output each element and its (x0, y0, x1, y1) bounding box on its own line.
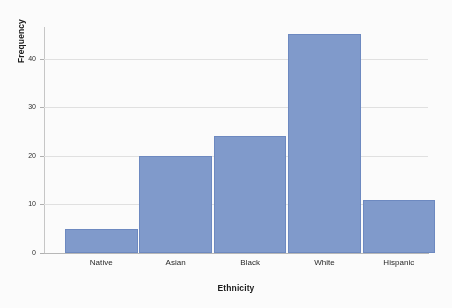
bar-white (288, 34, 361, 253)
x-axis-line (44, 253, 429, 254)
y-tick-label: 0 (14, 249, 36, 257)
bar-hispanic (363, 200, 436, 253)
x-tick-label-native: Native (65, 258, 138, 267)
y-tick-label: 40 (14, 55, 36, 63)
x-axis-title: Ethnicity (44, 283, 428, 293)
y-tick-mark (40, 204, 44, 205)
y-tick-mark (40, 156, 44, 157)
y-tick-label: 10 (14, 200, 36, 208)
y-tick-mark (40, 59, 44, 60)
x-tick-label-white: White (288, 258, 361, 267)
y-tick-mark (40, 253, 44, 254)
gridline (44, 107, 428, 108)
bar-chart: Frequency 010203040 NativeAsianBlackWhit… (0, 0, 452, 308)
x-tick-label-black: Black (214, 258, 287, 267)
x-tick-label-hispanic: Hispanic (363, 258, 436, 267)
y-tick-label: 30 (14, 103, 36, 111)
bar-black (214, 136, 287, 253)
bar-native (65, 229, 138, 253)
y-tick-label: 20 (14, 152, 36, 160)
bar-asian (139, 156, 212, 253)
gridline (44, 59, 428, 60)
y-axis-title-text: Frequency (16, 0, 26, 96)
x-tick-label-asian: Asian (139, 258, 212, 267)
y-tick-mark (40, 107, 44, 108)
y-axis-title: Frequency (26, 0, 40, 96)
